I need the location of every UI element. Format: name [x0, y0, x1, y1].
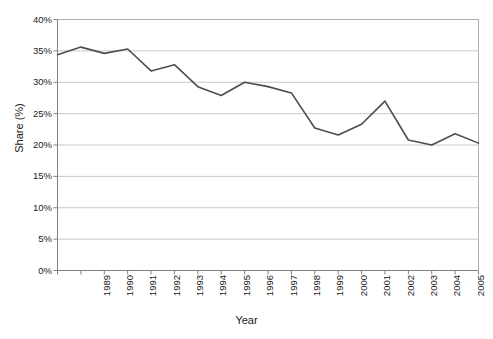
x-tick-marks: [58, 271, 479, 275]
gridlines: [58, 20, 479, 271]
line-chart-figure: 0%5%10%15%20%25%30%35%40% 19891990199119…: [0, 0, 493, 339]
plot-area: [0, 0, 493, 339]
series-line-share: [58, 47, 479, 145]
y-tick-marks: [54, 20, 58, 271]
data-series-line: [58, 47, 479, 145]
